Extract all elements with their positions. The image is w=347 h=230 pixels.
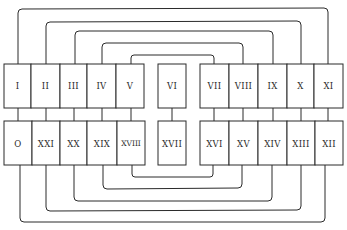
card-XX: XX	[60, 121, 87, 165]
card-II: II	[31, 64, 60, 108]
card-label: IV	[96, 81, 107, 91]
top-row: I II III IV V VI VII VIII IX X XI	[4, 64, 343, 108]
card-label: I	[16, 81, 20, 91]
card-label: XVI	[206, 139, 222, 149]
card-IV: IV	[87, 64, 116, 108]
card-label: III	[68, 81, 79, 91]
card-XII: XII	[315, 121, 343, 165]
card-VI: VI	[158, 64, 186, 108]
connector-XVIII-XVI	[132, 165, 213, 177]
card-label: O	[14, 139, 21, 149]
connector-IV-VIII	[102, 43, 243, 64]
card-XXI: XXI	[32, 121, 60, 165]
card-label: XIX	[94, 139, 111, 149]
card-label: VI	[166, 81, 177, 91]
connector-0-XII	[20, 165, 325, 222]
card-label: II	[42, 81, 49, 91]
card-label: IX	[267, 81, 278, 91]
card-label: XX	[67, 139, 80, 149]
card-I: I	[4, 64, 31, 108]
card-label: X	[297, 81, 304, 91]
card-XVIII: XVIII	[117, 121, 145, 165]
card-label: VII	[207, 81, 222, 91]
card-VIII: VIII	[229, 64, 258, 108]
card-label: XXI	[38, 139, 54, 149]
card-0: O	[4, 121, 32, 165]
connector-I-XI	[18, 8, 328, 64]
card-XIV: XIV	[258, 121, 287, 165]
card-X: X	[287, 64, 314, 108]
tarot-arrangement-diagram: I II III IV V VI VII VIII IX X XI O XXI …	[0, 0, 347, 230]
card-VII: VII	[200, 64, 229, 108]
card-XVII: XVII	[158, 121, 186, 165]
card-XIII: XIII	[287, 121, 315, 165]
card-IX: IX	[258, 64, 287, 108]
top-connectors	[18, 8, 328, 64]
card-label: VIII	[234, 81, 252, 91]
card-label: XVII	[162, 139, 182, 149]
card-label: XVIII	[121, 139, 141, 148]
card-label: XV	[237, 139, 250, 149]
bottom-connectors	[20, 165, 325, 222]
connector-V-VII	[131, 55, 214, 64]
card-label: XII	[322, 139, 336, 149]
card-V: V	[116, 64, 144, 108]
card-XVI: XVI	[200, 121, 229, 165]
vertical-connectors	[18, 108, 328, 121]
card-XI: XI	[314, 64, 343, 108]
card-label: XI	[323, 81, 333, 91]
bottom-row: O XXI XX XIX XVIII XVII XVI XV XIV XIII …	[4, 121, 343, 165]
card-label: V	[126, 81, 134, 91]
card-XV: XV	[229, 121, 258, 165]
card-III: III	[60, 64, 87, 108]
card-XIX: XIX	[87, 121, 117, 165]
card-label: XIV	[264, 139, 281, 149]
card-label: XIII	[292, 139, 309, 149]
